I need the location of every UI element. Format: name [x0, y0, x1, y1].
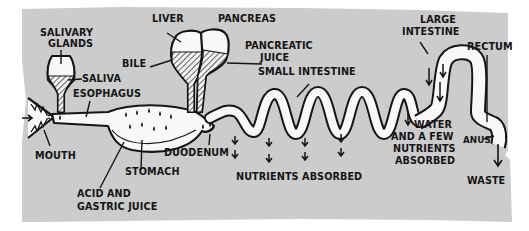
label-small-intestine: SMALL INTESTINE	[258, 66, 356, 78]
label-stomach: STOMACH	[125, 166, 180, 178]
label-pancreatic-juice-1: PANCREATIC	[245, 40, 313, 52]
label-absorbed: ABSORBED	[395, 155, 455, 167]
label-duodenum: DUODENUM	[164, 147, 229, 159]
label-salivary-glands-2: GLANDS	[48, 38, 93, 50]
label-saliva: SALIVA	[82, 73, 121, 85]
label-mouth: MOUTH	[35, 150, 76, 162]
label-gastric-juice: GASTRIC JUICE	[77, 201, 157, 213]
label-anus: ANUS	[463, 134, 491, 146]
label-acid-and: ACID AND	[77, 188, 131, 200]
label-bile: BILE	[122, 58, 146, 70]
label-large-intestine-2: INTESTINE	[402, 26, 460, 38]
label-liver: LIVER	[152, 13, 184, 25]
label-rectum: RECTUM	[467, 41, 513, 53]
label-esophagus: ESOPHAGUS	[73, 88, 141, 100]
label-water: WATER	[414, 119, 452, 131]
label-nutrients-absorbed: NUTRIENTS ABSORBED	[236, 171, 362, 183]
digestive-system-diagram: SALIVARY GLANDS SALIVA ESOPHAGUS MOUTH L…	[0, 0, 529, 231]
label-and-a-few: AND A FEW	[391, 131, 453, 143]
label-pancreatic-juice-2: JUICE	[260, 52, 289, 64]
label-nutrients: NUTRIENTS	[393, 143, 456, 155]
label-waste: WASTE	[467, 175, 505, 187]
label-pancreas: PANCREAS	[218, 13, 276, 25]
label-large-intestine-1: LARGE	[420, 14, 456, 26]
